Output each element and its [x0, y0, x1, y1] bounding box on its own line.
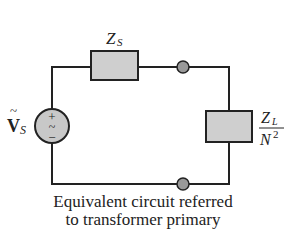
source-label-sub: S — [20, 123, 26, 137]
source-label: ~ V S — [7, 103, 26, 137]
zl-denominator-sup: 2 — [273, 128, 279, 140]
caption-line-1: Equivalent circuit referred — [0, 193, 286, 211]
zl-denominator-main: N — [259, 131, 272, 148]
load-impedance-label: Z L N 2 — [259, 109, 284, 148]
zs-label-main: Z — [106, 29, 116, 48]
zl-numerator-sub: L — [271, 116, 278, 127]
circuit-diagram: + ~ − ~ V S Z S Z L N 2 Equivalent circu… — [0, 0, 286, 232]
source-label-main: V — [7, 116, 20, 136]
series-impedance-label: Z S — [106, 29, 123, 48]
wires — [52, 67, 229, 184]
terminal-top — [177, 61, 189, 73]
wire-right-bottom — [52, 142, 229, 184]
terminal-bottom — [177, 178, 189, 190]
load-impedance-box — [206, 111, 252, 142]
voltage-source: + ~ − — [35, 109, 69, 145]
wire-left-top — [52, 67, 91, 109]
zs-label-sub: S — [117, 36, 123, 48]
caption-line-2: to transformer primary — [0, 211, 286, 229]
source-minus-sign: − — [48, 130, 55, 145]
series-impedance-box — [91, 51, 138, 80]
zl-numerator-main: Z — [261, 109, 271, 126]
